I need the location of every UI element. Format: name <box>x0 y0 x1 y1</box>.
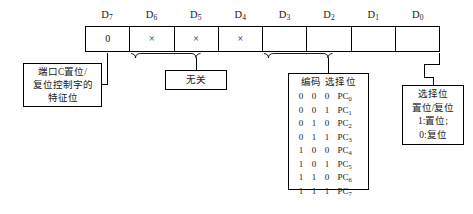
table-row: 1 1 0 PC6 <box>289 171 368 185</box>
bit-label-d2: D2 <box>307 6 351 23</box>
register-cell-d1 <box>352 27 396 51</box>
enc-bit: 1 <box>321 185 334 198</box>
enc-bit: 1 <box>321 158 334 171</box>
register-cell-d5: × <box>175 27 219 51</box>
table-row: 1 0 1 PC5 <box>289 158 368 172</box>
bit-label-d4: D4 <box>218 6 262 23</box>
enc-select: PC7 <box>334 185 363 199</box>
enc-bit: 1 <box>308 131 321 144</box>
register-cell-d0 <box>396 27 439 51</box>
enc-select: PC5 <box>334 158 363 172</box>
enc-bit: 0 <box>321 90 334 103</box>
encoding-table-header: 编码 选择位 <box>289 76 368 89</box>
table-row: 1 0 0 PC4 <box>289 144 368 158</box>
enc-bit: 1 <box>295 144 308 157</box>
enc-bit: 1 <box>308 171 321 184</box>
enc-bit: 0 <box>321 117 334 130</box>
enc-bit: 0 <box>308 144 321 157</box>
set-reset-line-4: 0:复位 <box>403 129 463 143</box>
connector-d0 <box>424 53 439 86</box>
enc-bit: 0 <box>308 158 321 171</box>
table-row: 0 1 0 PC2 <box>289 117 368 131</box>
dont-care-box: 无关 <box>165 70 227 90</box>
dont-care-label: 无关 <box>166 71 226 90</box>
encoding-table-rows: 0 0 0 PC0 0 0 1 PC1 0 1 0 PC2 0 1 1 PC <box>289 90 368 198</box>
register-cell-d3 <box>263 27 307 51</box>
set-reset-line-3: 1:置位; <box>403 115 463 129</box>
brace-encoding <box>264 54 333 59</box>
bit-label-d5: D5 <box>174 6 218 23</box>
control-word-register: 0 × × × <box>85 26 440 52</box>
enc-select: PC1 <box>334 104 363 118</box>
enc-bit: 1 <box>321 104 334 117</box>
enc-bit: 0 <box>295 117 308 130</box>
enc-select: PC0 <box>334 90 363 104</box>
enc-bit: 0 <box>295 104 308 117</box>
enc-bit: 1 <box>308 185 321 198</box>
set-reset-line-1: 选择位 <box>403 88 463 102</box>
bit-label-d6: D6 <box>129 6 173 23</box>
bit-label-d3: D3 <box>263 6 307 23</box>
bit-label-d7: D7 <box>85 6 129 23</box>
enc-bit: 1 <box>295 185 308 198</box>
enc-bit: 0 <box>308 104 321 117</box>
table-row: 0 0 0 PC0 <box>289 90 368 104</box>
control-word-diagram: D7 D6 D5 D4 D3 D2 D1 D0 0 × × × 端口C置位/ 复… <box>0 0 473 214</box>
brace-dontcare <box>131 54 201 59</box>
table-row: 0 0 1 PC1 <box>289 104 368 118</box>
register-cell-d6: × <box>130 27 174 51</box>
enc-bit: 1 <box>321 131 334 144</box>
enc-bit: 0 <box>295 131 308 144</box>
enc-bit: 1 <box>295 171 308 184</box>
enc-select: PC6 <box>334 171 363 185</box>
feature-bit-line-1: 端口C置位/ <box>24 66 101 79</box>
table-row: 1 1 1 PC7 <box>289 185 368 199</box>
enc-bit: 1 <box>308 117 321 130</box>
register-cell-d2 <box>307 27 351 51</box>
enc-select: PC4 <box>334 144 363 158</box>
enc-select: PC3 <box>334 131 363 145</box>
register-cell-d4: × <box>219 27 263 51</box>
connector-d7 <box>102 53 108 85</box>
register-cell-d7: 0 <box>86 27 130 51</box>
feature-bit-line-2: 复位控制字的 <box>24 79 101 92</box>
enc-bit: 0 <box>295 90 308 103</box>
enc-bit: 0 <box>321 171 334 184</box>
bit-label-row: D7 D6 D5 D4 D3 D2 D1 D0 <box>85 6 440 23</box>
enc-bit: 0 <box>321 144 334 157</box>
enc-bit: 1 <box>295 158 308 171</box>
enc-select: PC2 <box>334 117 363 131</box>
table-row: 0 1 1 PC3 <box>289 131 368 145</box>
set-reset-box: 选择位 置位/复位 1:置位; 0:复位 <box>402 85 464 145</box>
set-reset-line-2: 置位/复位 <box>403 102 463 116</box>
bit-label-d1: D1 <box>351 6 395 23</box>
bit-label-d0: D0 <box>396 6 440 23</box>
enc-bit: 0 <box>308 90 321 103</box>
encoding-table-box: 编码 选择位 0 0 0 PC0 0 0 1 PC1 0 1 0 PC2 0 <box>288 73 369 190</box>
feature-bit-line-3: 特征位 <box>24 92 101 105</box>
feature-bit-box: 端口C置位/ 复位控制字的 特征位 <box>23 63 102 107</box>
